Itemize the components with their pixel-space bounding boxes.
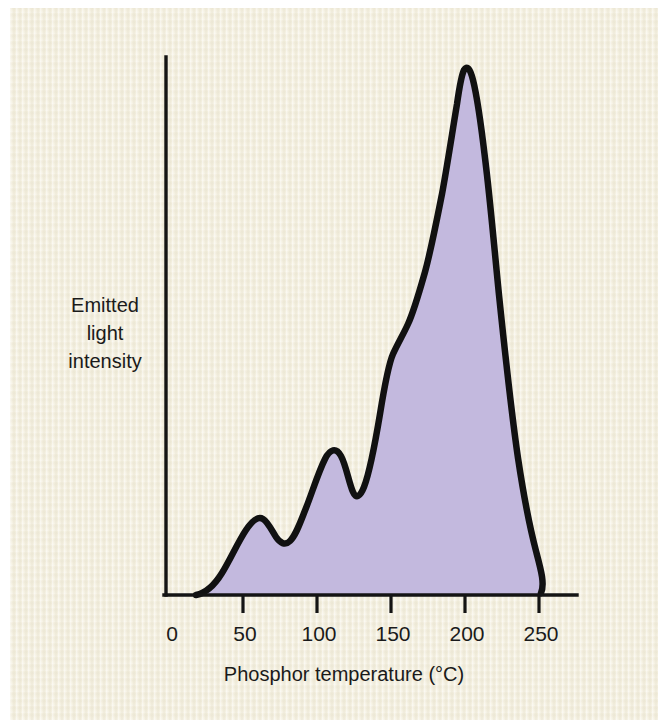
- x-axis-tick-labels: 0 50 100 150 200 250: [166, 622, 558, 645]
- x-axis-ticks: [243, 595, 539, 613]
- x-tick-label-250: 250: [523, 622, 558, 645]
- x-tick-label-150: 150: [375, 622, 410, 645]
- curve-area-fill: [196, 68, 543, 595]
- y-axis-title-line-2: light: [87, 322, 124, 344]
- x-tick-label-200: 200: [449, 622, 484, 645]
- x-tick-label-50: 50: [233, 622, 256, 645]
- y-axis-title: Emitted light intensity: [68, 294, 141, 372]
- x-tick-label-0: 0: [166, 622, 178, 645]
- y-axis-title-line-3: intensity: [68, 350, 141, 372]
- thermoluminescence-glow-curve-chart: 0 50 100 150 200 250 Phosphor temperatur…: [0, 0, 665, 727]
- x-tick-label-100: 100: [301, 622, 336, 645]
- y-axis-title-line-1: Emitted: [71, 294, 139, 316]
- figure-container: 0 50 100 150 200 250 Phosphor temperatur…: [0, 0, 665, 727]
- x-axis-title: Phosphor temperature (°C): [224, 663, 464, 685]
